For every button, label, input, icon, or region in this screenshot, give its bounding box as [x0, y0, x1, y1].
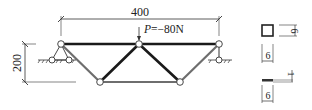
square-width-label: 6 — [266, 50, 271, 61]
legend-square-section: 6 — [262, 25, 300, 36]
span-dimension: 400 — [58, 5, 222, 36]
truss-nodes — [58, 41, 223, 86]
flat-width-label: 6 — [266, 90, 271, 101]
member-C-E — [180, 44, 219, 82]
load-arrow: P=−80N — [137, 23, 185, 41]
square-section-icon — [262, 25, 273, 36]
node-A — [58, 41, 65, 48]
thin-members — [61, 44, 219, 82]
node-D — [97, 79, 104, 86]
load-label: P=−80N — [143, 23, 185, 35]
span-label: 400 — [131, 5, 149, 19]
square-height-label: 6 — [289, 29, 300, 34]
legend-flat-section: 1 6 — [262, 70, 296, 103]
node-C — [216, 41, 223, 48]
flat-section-icon — [262, 79, 273, 82]
node-B — [136, 41, 143, 48]
member-A-D — [61, 44, 100, 82]
thick-members — [61, 44, 219, 82]
legend-square-width: 6 — [262, 44, 273, 63]
member-B-E — [139, 44, 180, 82]
height-label: 200 — [10, 54, 24, 72]
flat-thickness-label: 1 — [286, 72, 296, 77]
node-E — [177, 79, 184, 86]
truss-diagram: 400 200 P=−80N — [0, 0, 312, 110]
member-B-D — [100, 44, 139, 82]
